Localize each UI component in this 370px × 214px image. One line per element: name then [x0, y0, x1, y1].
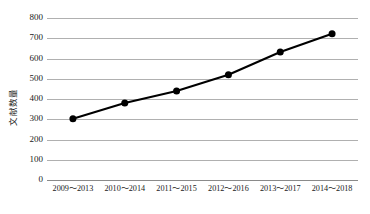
x-tick-label: 2012～2016 [208, 184, 249, 194]
plot-area [47, 18, 358, 180]
series-polyline [73, 34, 332, 119]
x-tick-label: 2009～2013 [53, 184, 94, 194]
y-tick-label: 300 [3, 114, 43, 123]
data-point [225, 71, 232, 78]
data-point [69, 115, 76, 122]
data-point [329, 30, 336, 37]
x-tick-label: 2010～2014 [104, 184, 145, 194]
y-tick-label: 500 [3, 74, 43, 83]
x-tick-label: 2013～2017 [260, 184, 301, 194]
data-point [121, 100, 128, 107]
data-series-line [47, 18, 358, 180]
data-point [277, 49, 284, 56]
x-tick-label: 2014～2018 [312, 184, 353, 194]
x-tick-label: 2011～2015 [156, 184, 196, 194]
y-tick-label: 0 [3, 175, 43, 184]
y-tick-label: 400 [3, 94, 43, 103]
line-chart: 文献数量 8007006005004003002001000 2009～2013… [0, 0, 370, 214]
data-point [173, 87, 180, 94]
gridline [47, 180, 358, 181]
y-tick-label: 200 [3, 135, 43, 144]
x-axis-tick-labels: 2009～20132010～20142011～20152012～20162013… [47, 184, 358, 200]
y-tick-label: 600 [3, 54, 43, 63]
y-axis-tick-labels: 8007006005004003002001000 [0, 18, 43, 180]
y-tick-label: 800 [3, 13, 43, 22]
y-tick-label: 100 [3, 155, 43, 164]
y-tick-label: 700 [3, 33, 43, 42]
